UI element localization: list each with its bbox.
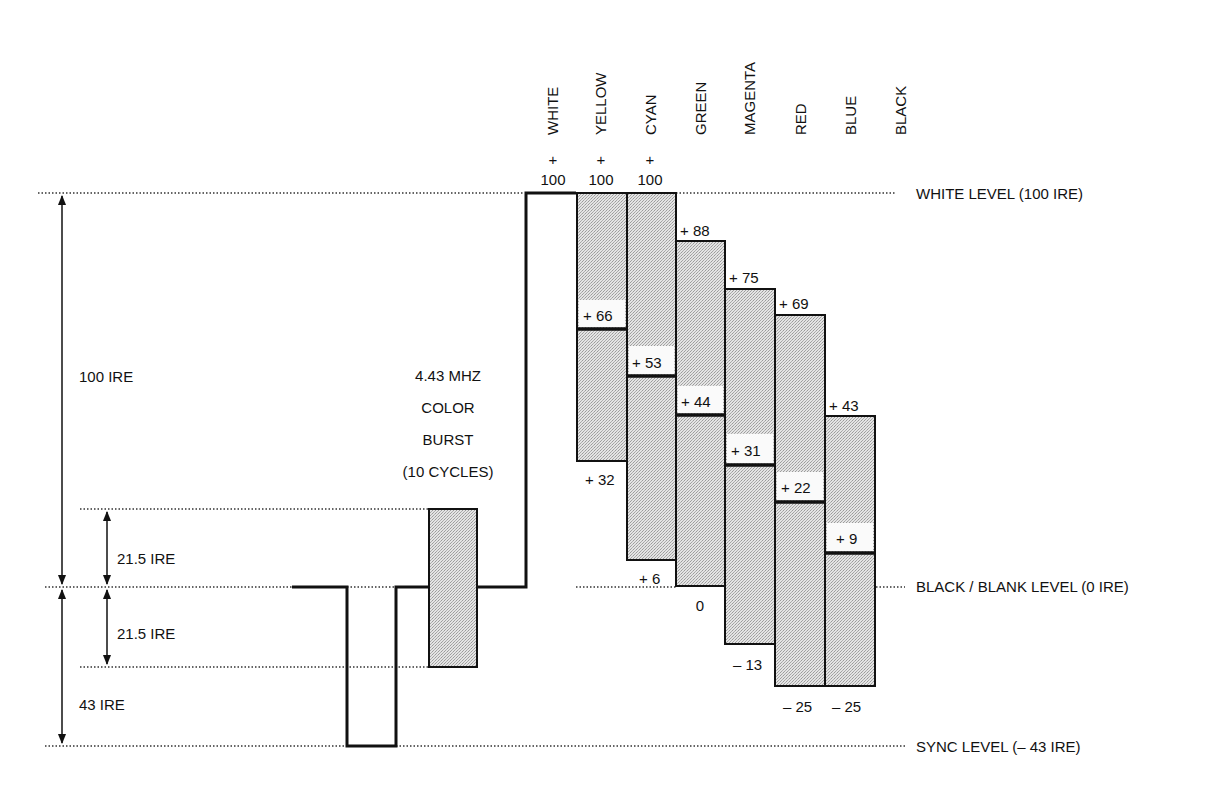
burst-color-label: COLOR: [421, 399, 475, 416]
bottom-value-magenta: – 13: [733, 656, 762, 673]
white-level-label: WHITE LEVEL (100 IRE): [916, 185, 1083, 202]
burst-lower-ire-label: 21.5 IRE: [117, 625, 175, 642]
bottom-value-cyan: + 6: [639, 570, 660, 587]
top-value-magenta: + 75: [729, 269, 759, 286]
mid-value-magenta: + 31: [731, 442, 761, 459]
top-value-yellow: 100: [588, 171, 613, 188]
color-burst-box: [429, 509, 477, 667]
top-value-cyan: 100: [637, 171, 662, 188]
black-level-label: BLACK / BLANK LEVEL (0 IRE): [916, 578, 1129, 595]
top-plus-cyan: +: [646, 151, 655, 168]
bar-name-green: GREEN: [692, 82, 709, 135]
burst-upper-ire-label: 21.5 IRE: [117, 550, 175, 567]
bar-name-magenta: MAGENTA: [741, 62, 758, 135]
bar-name-yellow: YELLOW: [592, 72, 609, 135]
mid-value-blue: + 9: [836, 530, 857, 547]
sync-level-label: SYNC LEVEL (– 43 IRE): [916, 738, 1081, 755]
top-value-green: + 88: [680, 222, 710, 239]
top-value-blue: + 43: [829, 397, 859, 414]
total-ire-label: 100 IRE: [79, 368, 133, 385]
bar-name-white: WHITE: [544, 87, 561, 135]
sync-ire-label: 43 IRE: [79, 696, 125, 713]
burst-frequency-label: 4.43 MHZ: [415, 367, 481, 384]
bar-name-cyan: CYAN: [642, 94, 659, 135]
mid-value-red: + 22: [781, 479, 811, 496]
bar-name-black: BLACK: [892, 86, 909, 135]
top-value-white: 100: [540, 171, 565, 188]
bar-name-blue: BLUE: [842, 96, 859, 135]
mid-value-yellow: + 66: [583, 307, 613, 324]
bottom-value-yellow: + 32: [585, 471, 615, 488]
top-plus-white: +: [549, 151, 558, 168]
mid-value-cyan: + 53: [632, 354, 662, 371]
top-value-red: + 69: [779, 295, 809, 312]
bottom-value-green: 0: [696, 597, 704, 614]
burst-burst-label: BURST: [423, 431, 474, 448]
colour-bar-waveform-diagram: 100 IRE 21.5 IRE 21.5 IRE 43 IRE 4.43 MH…: [0, 0, 1229, 792]
bottom-value-red: – 25: [783, 698, 812, 715]
burst-cycles-label: (10 CYCLES): [403, 463, 494, 480]
bottom-value-blue: – 25: [832, 698, 861, 715]
bar-name-red: RED: [792, 103, 809, 135]
top-plus-yellow: +: [597, 151, 606, 168]
mid-value-green: + 44: [681, 393, 711, 410]
